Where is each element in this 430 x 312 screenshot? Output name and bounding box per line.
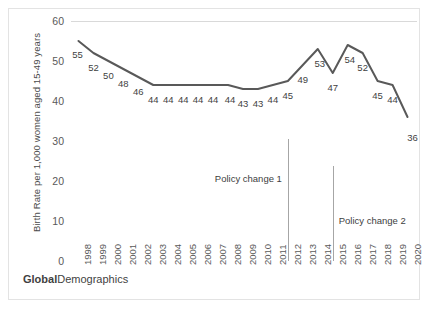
x-tick-2003: 2003 <box>157 244 168 265</box>
data-label-2001: 48 <box>118 78 129 89</box>
y-tick-20: 20 <box>52 175 64 187</box>
data-label-2000: 50 <box>103 70 114 81</box>
data-label-2008: 44 <box>225 94 236 105</box>
data-label-2012: 45 <box>283 90 294 101</box>
annotation-label-2: Policy change 2 <box>339 215 406 226</box>
y-tick-0: 0 <box>58 255 64 267</box>
x-tick-2009: 2009 <box>247 244 258 265</box>
data-label-2003: 44 <box>148 94 159 105</box>
x-tick-2019: 2019 <box>397 244 408 265</box>
x-tick-2001: 2001 <box>127 244 138 265</box>
data-label-2020: 36 <box>407 132 418 143</box>
data-label-2019: 44 <box>387 94 398 105</box>
data-label-2016: 54 <box>344 54 355 65</box>
x-tick-2010: 2010 <box>262 244 273 265</box>
data-label-1999: 52 <box>88 62 99 73</box>
data-label-2006: 44 <box>193 94 204 105</box>
data-label-2014: 53 <box>314 58 325 69</box>
data-label-2011: 44 <box>268 94 279 105</box>
data-label-2010: 43 <box>253 98 264 109</box>
x-tick-2020: 2020 <box>412 244 423 265</box>
x-tick-1998: 1998 <box>82 244 93 265</box>
y-tick-30: 30 <box>52 135 64 147</box>
data-label-2005: 44 <box>178 94 189 105</box>
brand-regular: Demographics <box>57 273 128 285</box>
x-tick-2016: 2016 <box>352 244 363 265</box>
x-tick-2012: 2012 <box>292 244 303 265</box>
x-tick-2000: 2000 <box>112 244 123 265</box>
x-tick-2002: 2002 <box>142 244 153 265</box>
x-tick-2006: 2006 <box>202 244 213 265</box>
annotation-line-1 <box>288 139 289 261</box>
data-label-2007: 44 <box>208 94 219 105</box>
chart-card: Birth Rate per 1,000 women aged 15-49 ye… <box>8 8 420 300</box>
data-label-1998: 55 <box>72 49 83 60</box>
x-tick-2017: 2017 <box>367 244 378 265</box>
data-label-2015: 47 <box>327 82 338 93</box>
data-label-2009: 43 <box>238 98 249 109</box>
data-label-2004: 44 <box>163 94 174 105</box>
x-tick-2004: 2004 <box>172 244 183 265</box>
y-tick-60: 60 <box>52 15 64 27</box>
y-tick-50: 50 <box>52 55 64 67</box>
data-label-2002: 46 <box>133 86 144 97</box>
x-tick-2015: 2015 <box>337 244 348 265</box>
data-label-2017: 52 <box>357 62 368 73</box>
y-tick-40: 40 <box>52 95 64 107</box>
data-label-2018: 45 <box>372 90 383 101</box>
x-tick-2013: 2013 <box>307 244 318 265</box>
plot-area: 6050403020100 55525048464444444444444343… <box>71 21 415 261</box>
y-axis-title: Birth Rate per 1,000 women aged 15-49 ye… <box>31 18 42 248</box>
x-tick-2011: 2011 <box>277 245 288 265</box>
annotation-label-1: Policy change 1 <box>215 173 282 184</box>
y-tick-10: 10 <box>52 215 64 227</box>
x-tick-2008: 2008 <box>232 244 243 265</box>
x-tick-2018: 2018 <box>382 244 393 265</box>
brand-bold: Global <box>23 273 57 285</box>
x-tick-2014: 2014 <box>322 244 333 265</box>
x-tick-1999: 1999 <box>97 244 108 265</box>
data-label-2013: 49 <box>298 74 309 85</box>
brand-watermark: GlobalDemographics <box>23 273 128 285</box>
x-tick-2007: 2007 <box>217 244 228 265</box>
x-tick-2005: 2005 <box>187 244 198 265</box>
